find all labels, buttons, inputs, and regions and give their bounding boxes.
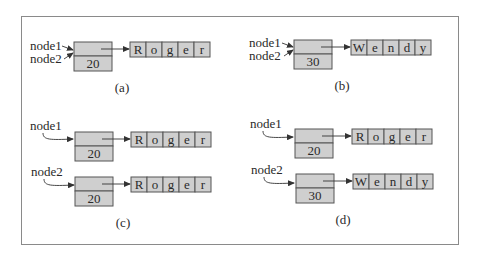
char-array: W e n d y bbox=[353, 174, 433, 189]
array-char: o bbox=[151, 42, 158, 57]
array-char: d bbox=[406, 174, 413, 189]
panel-caption: (b) bbox=[334, 78, 349, 93]
pointer-arrow-node1 bbox=[282, 43, 293, 47]
node-box: 20 bbox=[75, 177, 113, 206]
array-char: y bbox=[422, 174, 429, 189]
panel-caption: (d) bbox=[335, 212, 350, 227]
pointer-arrow-node2 bbox=[284, 50, 293, 56]
node-value: 20 bbox=[88, 146, 101, 161]
pointer-arrow-node2 bbox=[44, 179, 74, 185]
array-char: e bbox=[372, 40, 378, 55]
node-value: 20 bbox=[88, 191, 101, 206]
char-array: R o g e r bbox=[130, 42, 210, 57]
array-char: r bbox=[201, 132, 206, 147]
array-char: o bbox=[152, 132, 159, 147]
array-char: o bbox=[373, 129, 380, 144]
panel-d: node1 20 R o g e r node2 30 bbox=[250, 116, 433, 227]
char-array: R o g e r bbox=[131, 132, 211, 147]
char-array: W e n d y bbox=[351, 40, 431, 55]
node-box: 30 bbox=[294, 40, 332, 69]
array-char: R bbox=[134, 42, 143, 57]
panel-caption: (a) bbox=[115, 80, 129, 95]
array-char: y bbox=[420, 40, 427, 55]
array-char: r bbox=[200, 42, 205, 57]
array-char: e bbox=[184, 132, 190, 147]
panel-caption: (c) bbox=[116, 215, 130, 230]
array-char: W bbox=[355, 174, 368, 189]
array-char: g bbox=[168, 132, 175, 147]
ref-label-node1: node1 bbox=[30, 118, 62, 133]
pointer-arrow-node2 bbox=[264, 177, 294, 183]
panel-a: node1 node2 20 R o g e r (a) bbox=[30, 38, 210, 95]
pointer-arrow-node1 bbox=[62, 46, 73, 50]
pointer-arrow-node1 bbox=[43, 133, 73, 139]
ref-label-node1: node1 bbox=[250, 116, 282, 131]
char-array: R o g e r bbox=[352, 129, 432, 144]
node-value: 30 bbox=[309, 188, 322, 203]
pointer-arrow-node2 bbox=[64, 53, 73, 59]
node-box: 20 bbox=[295, 129, 333, 158]
char-array: R o g e r bbox=[131, 177, 211, 192]
ref-label-node2: node2 bbox=[30, 51, 62, 66]
array-char: o bbox=[152, 177, 159, 192]
array-char: r bbox=[422, 129, 427, 144]
ref-label-node2: node2 bbox=[249, 48, 281, 63]
pointer-arrow-node1 bbox=[263, 131, 293, 137]
array-char: R bbox=[135, 177, 144, 192]
diagram-canvas: node1 node2 20 R o g e r (a) node1 node2 bbox=[0, 0, 479, 264]
array-char: d bbox=[404, 40, 411, 55]
array-char: g bbox=[167, 42, 174, 57]
array-char: n bbox=[390, 174, 397, 189]
array-char: g bbox=[168, 177, 175, 192]
array-char: R bbox=[356, 129, 365, 144]
panel-c: node1 20 R o g e r node2 20 bbox=[30, 118, 211, 230]
ref-label-node2: node2 bbox=[251, 162, 283, 177]
node-box: 30 bbox=[296, 174, 334, 203]
node-box: 20 bbox=[75, 132, 113, 161]
array-char: g bbox=[389, 129, 396, 144]
node-value: 20 bbox=[308, 143, 321, 158]
array-char: R bbox=[135, 132, 144, 147]
array-char: e bbox=[374, 174, 380, 189]
array-char: e bbox=[183, 42, 189, 57]
node-value: 20 bbox=[87, 56, 100, 71]
panel-b: node1 node2 30 W e n d y (b) bbox=[249, 35, 431, 93]
array-char: e bbox=[184, 177, 190, 192]
array-char: e bbox=[405, 129, 411, 144]
array-char: n bbox=[388, 40, 395, 55]
array-char: r bbox=[201, 177, 206, 192]
node-value: 30 bbox=[307, 54, 320, 69]
array-char: W bbox=[353, 40, 366, 55]
node-box: 20 bbox=[74, 42, 112, 71]
ref-label-node2: node2 bbox=[31, 164, 63, 179]
